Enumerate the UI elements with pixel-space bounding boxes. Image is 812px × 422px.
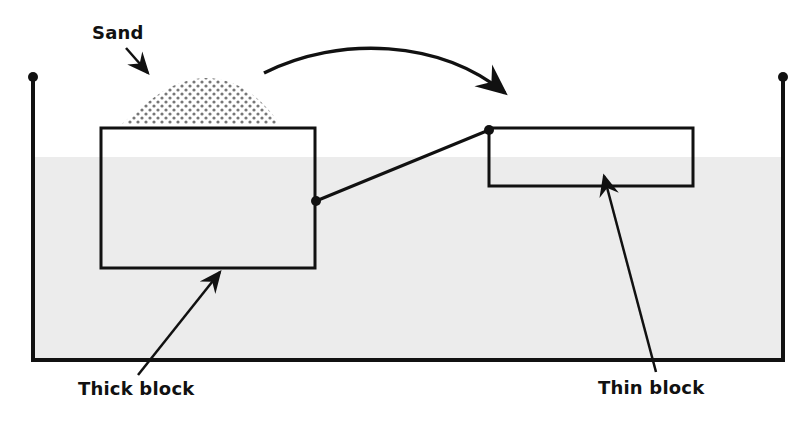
sand-pointer-arrow <box>126 48 148 73</box>
sand-label: Sand <box>92 22 144 43</box>
thick-block-label: Thick block <box>78 378 194 399</box>
tank-right-knob <box>778 72 788 82</box>
transfer-arrow <box>264 48 505 93</box>
sand-pile <box>122 78 280 124</box>
rope-joint-right <box>484 125 494 135</box>
tank-left-knob <box>28 72 38 82</box>
thin-block-label: Thin block <box>598 377 704 398</box>
rope-joint-left <box>311 196 321 206</box>
flotation-diagram <box>0 0 812 422</box>
